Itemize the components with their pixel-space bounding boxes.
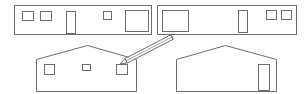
gable-outline [37, 46, 137, 92]
gable-outline [177, 46, 277, 92]
door-opening [259, 65, 270, 91]
gable-end-elevation-b [177, 46, 277, 92]
window-large-opening [126, 11, 149, 32]
window-large-opening [163, 11, 189, 32]
pencil-icon [120, 35, 173, 64]
long-side-elevation-b [158, 6, 297, 35]
pencil-line [126, 37, 172, 61]
window-opening [282, 11, 292, 20]
window-opening [267, 11, 277, 20]
elevation-outline [15, 6, 152, 35]
window-opening [45, 65, 55, 75]
house-elevations-diagram [0, 0, 304, 94]
window-opening [83, 65, 91, 71]
window-opening [117, 65, 128, 75]
window-opening [23, 12, 34, 21]
window-opening [104, 12, 112, 20]
long-side-elevation-a [15, 6, 152, 35]
gable-end-elevation-a [37, 46, 137, 92]
door-opening [239, 11, 248, 33]
door-opening [67, 12, 76, 34]
window-opening [41, 12, 52, 21]
